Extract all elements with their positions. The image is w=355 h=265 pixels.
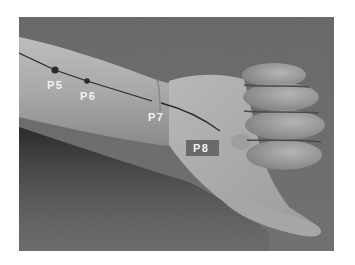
point-p7-label: P7 bbox=[148, 111, 164, 123]
fingertip bbox=[231, 134, 251, 150]
point-p6-dot bbox=[84, 78, 90, 84]
point-p5-dot bbox=[51, 66, 58, 73]
point-p5-label: P5 bbox=[47, 79, 63, 91]
point-p6-label: P6 bbox=[80, 90, 96, 102]
point-p8-label: P8 bbox=[193, 142, 209, 154]
acupuncture-figure: P5 P6 P7 P8 bbox=[19, 17, 334, 251]
finger-ring bbox=[245, 110, 325, 140]
finger-little bbox=[246, 140, 322, 170]
